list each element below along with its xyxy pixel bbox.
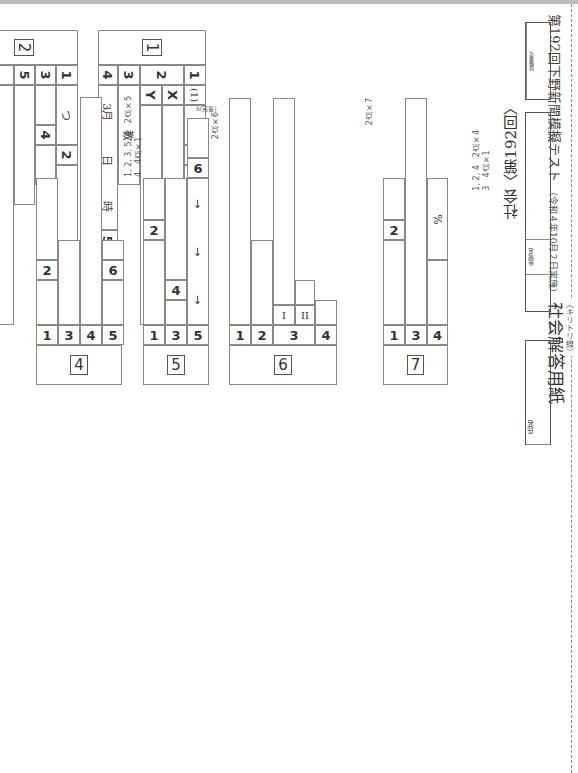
q-number: 4 xyxy=(98,65,118,85)
q-number: 3 xyxy=(273,325,315,345)
q-number: 3 xyxy=(165,325,187,345)
answer-box-long[interactable] xyxy=(405,98,427,325)
answer-box[interactable] xyxy=(383,178,405,220)
section-label-7-box: 7 xyxy=(383,345,448,385)
answer-box[interactable] xyxy=(165,178,187,280)
q-number: 2 xyxy=(36,260,58,280)
section-label-6-box: 6 xyxy=(229,345,337,385)
venue-box[interactable]: 会場名 xyxy=(525,112,551,312)
answer-box[interactable] xyxy=(143,240,165,325)
answer-box[interactable] xyxy=(165,300,187,325)
cut-line xyxy=(571,4,572,773)
answer-box[interactable] xyxy=(315,300,337,325)
answer-box[interactable] xyxy=(383,240,405,325)
answer-box[interactable] xyxy=(295,280,315,305)
answer-box-q1[interactable] xyxy=(229,98,251,325)
subject-title: 社会〈第192回〉 xyxy=(500,100,521,219)
q-number: 3 xyxy=(58,325,80,345)
cut-line-label: 〈キリトリ線〉 xyxy=(563,300,574,356)
q-number: 1 xyxy=(184,65,206,85)
q-number: 5 xyxy=(102,325,124,345)
points-note: 1, 2, 4 2点×43 4点×1 xyxy=(472,130,492,191)
answer-box[interactable] xyxy=(35,85,56,125)
answer-box[interactable] xyxy=(251,240,273,325)
section-label-2: 2 xyxy=(0,30,78,65)
section-label-1: 1 xyxy=(98,30,206,65)
answer-box[interactable] xyxy=(187,118,209,158)
q-number: 1 xyxy=(229,325,251,345)
answer-box[interactable] xyxy=(102,240,124,260)
q-number: 2 xyxy=(143,220,165,240)
name-box[interactable]: 氏名 xyxy=(525,340,551,445)
sub-label: I xyxy=(273,305,295,325)
q-number: 6 xyxy=(0,65,14,85)
q-number: 2 xyxy=(140,65,184,85)
answer-box[interactable] xyxy=(14,85,35,205)
sub-label: X xyxy=(162,85,184,105)
q-number: 4 xyxy=(80,325,102,345)
q-number: 1 xyxy=(383,325,405,345)
q-number: 6 xyxy=(102,260,124,280)
venue-label: 会場名 xyxy=(526,239,550,275)
section-label-5-box: 5 xyxy=(143,345,209,385)
points-note: 1, 2, 3, 5, 6 2点×54 4点×1 xyxy=(124,96,144,177)
q-number: 3 xyxy=(405,325,427,345)
points-note: 2点×6 xyxy=(211,112,221,139)
answer-box-long[interactable] xyxy=(0,85,14,325)
answer-box[interactable] xyxy=(80,97,102,325)
points-note: 2点×7 xyxy=(365,98,375,125)
answer-box[interactable] xyxy=(143,178,165,220)
answer-box[interactable] xyxy=(102,280,124,325)
q-number: 1 xyxy=(56,65,78,85)
q-number: 4 xyxy=(35,125,56,145)
answer-box[interactable] xyxy=(36,178,58,260)
exam-number-box[interactable]: 受験番号 xyxy=(525,22,551,100)
exam-number-label: 受験番号 xyxy=(526,23,535,99)
section-label-4-box: 4 xyxy=(36,345,122,385)
answer-box-long[interactable] xyxy=(273,98,295,305)
answer-box[interactable]: つ xyxy=(56,85,78,145)
answer-box[interactable] xyxy=(58,240,80,325)
q-number: 3 xyxy=(118,65,140,85)
q-number: 3 xyxy=(35,65,56,85)
q-number: 4 xyxy=(427,325,448,345)
q-number: 5 xyxy=(14,65,35,85)
q-number: 5 xyxy=(187,325,209,345)
answer-box[interactable] xyxy=(427,260,448,325)
q-number: 6 xyxy=(187,158,209,178)
answer-box[interactable] xyxy=(36,280,58,325)
q-number: 1 xyxy=(36,325,58,345)
q-number: 2 xyxy=(251,325,273,345)
q-number: 4 xyxy=(165,280,187,300)
sub-label: (1) xyxy=(184,85,206,105)
q-number: 4 xyxy=(315,325,337,345)
q-number: 1 xyxy=(143,325,165,345)
q-number: 2 xyxy=(383,220,405,240)
sub-label: II xyxy=(295,305,315,325)
q-number: 2 xyxy=(56,145,78,165)
answer-box-percent[interactable]: % xyxy=(427,178,448,260)
name-label: 氏名 xyxy=(526,411,550,445)
answer-box-order[interactable]: → → → xyxy=(187,178,209,325)
